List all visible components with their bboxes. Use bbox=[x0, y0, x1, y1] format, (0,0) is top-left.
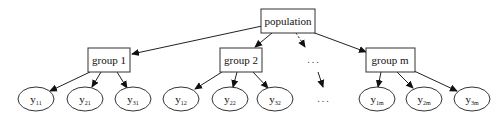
node-group2-label: group 2 bbox=[224, 54, 258, 66]
leaf-y32: y32 bbox=[257, 87, 293, 111]
edge-group2-y12 bbox=[195, 72, 222, 89]
leaf-y31: y31 bbox=[115, 87, 151, 111]
ellipsis-group-label: ... bbox=[307, 54, 321, 65]
node-groupm-label: group m bbox=[372, 54, 409, 66]
leaf-y22: y22 bbox=[212, 87, 248, 111]
leaf-y1m-sub: 1m bbox=[376, 100, 384, 106]
leaf-y3m: y3m bbox=[454, 87, 490, 111]
leaf-y3m-sub: 3m bbox=[471, 100, 479, 106]
edge-population-groupm bbox=[312, 32, 366, 52]
leaf-y32-sub: 32 bbox=[275, 100, 281, 106]
edge-group1-y31 bbox=[117, 72, 127, 88]
edges-leaves bbox=[50, 70, 457, 91]
leaf-y12-sub: 12 bbox=[181, 100, 187, 106]
node-group1-label: group 1 bbox=[92, 54, 126, 66]
leaf-y2m: y2m bbox=[406, 87, 442, 111]
edge-ellipsis-leaf bbox=[318, 72, 323, 87]
edge-groupm-y2m bbox=[397, 72, 413, 88]
leaf-y31-sub: 31 bbox=[133, 100, 139, 106]
edge-group1-y21 bbox=[92, 72, 101, 87]
leaf-y11: y11 bbox=[18, 87, 54, 111]
edge-group2-y32 bbox=[253, 72, 268, 88]
leaf-ellipsis: ... bbox=[317, 93, 331, 104]
leaf-y2m-sub: 2m bbox=[423, 100, 431, 106]
node-groupm: group m bbox=[366, 48, 415, 72]
ellipsis-leaf-label: ... bbox=[317, 93, 331, 104]
leaf-y22-sub: 22 bbox=[230, 100, 236, 106]
node-population-label: population bbox=[264, 15, 312, 27]
node-group2: group 2 bbox=[220, 48, 262, 72]
node-group1: group 1 bbox=[88, 48, 130, 72]
edge-population-group2 bbox=[255, 33, 272, 47]
edge-group2-y22 bbox=[233, 72, 237, 87]
node-ellipsis-group: ... bbox=[307, 54, 321, 65]
edge-groupm-y1m bbox=[378, 72, 381, 87]
leaf-y11-sub: 11 bbox=[36, 100, 42, 106]
edge-population-ellipsis bbox=[296, 33, 305, 47]
leaf-y1m: y1m bbox=[359, 87, 395, 111]
node-population: population bbox=[261, 9, 315, 33]
tree-diagram: population group 1 group 2 ... group m y… bbox=[0, 0, 504, 119]
leaf-y21-sub: 21 bbox=[85, 100, 91, 106]
leaf-y12: y12 bbox=[163, 87, 199, 111]
leaf-y21: y21 bbox=[67, 87, 103, 111]
